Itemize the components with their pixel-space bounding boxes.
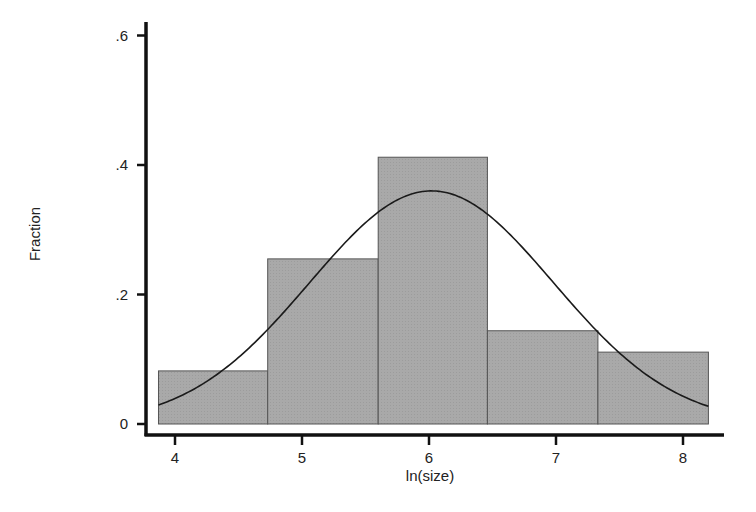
y-tick-label: .4 xyxy=(115,156,128,173)
histogram-bars xyxy=(158,157,708,424)
histogram-bar xyxy=(378,157,487,424)
x-axis-title: ln(size) xyxy=(406,467,454,484)
y-tick-label: 0 xyxy=(120,415,128,432)
histogram-bar xyxy=(268,259,378,424)
histogram-chart: 0.2.4.6 45678 ln(size) Fraction xyxy=(0,0,756,512)
histogram-bar xyxy=(158,371,267,424)
x-tick-label: 4 xyxy=(171,449,179,466)
x-tick-label: 7 xyxy=(552,449,560,466)
histogram-bar xyxy=(487,331,597,424)
x-tick-label: 8 xyxy=(679,449,687,466)
x-tick-label: 5 xyxy=(298,449,306,466)
y-axis-ticks: 0.2.4.6 xyxy=(115,27,146,433)
y-tick-label: .6 xyxy=(115,27,128,44)
x-axis-ticks: 45678 xyxy=(171,435,687,466)
x-tick-label: 6 xyxy=(425,449,433,466)
y-axis-title: Fraction xyxy=(26,207,43,261)
y-tick-label: .2 xyxy=(115,286,128,303)
histogram-bar xyxy=(598,352,708,424)
